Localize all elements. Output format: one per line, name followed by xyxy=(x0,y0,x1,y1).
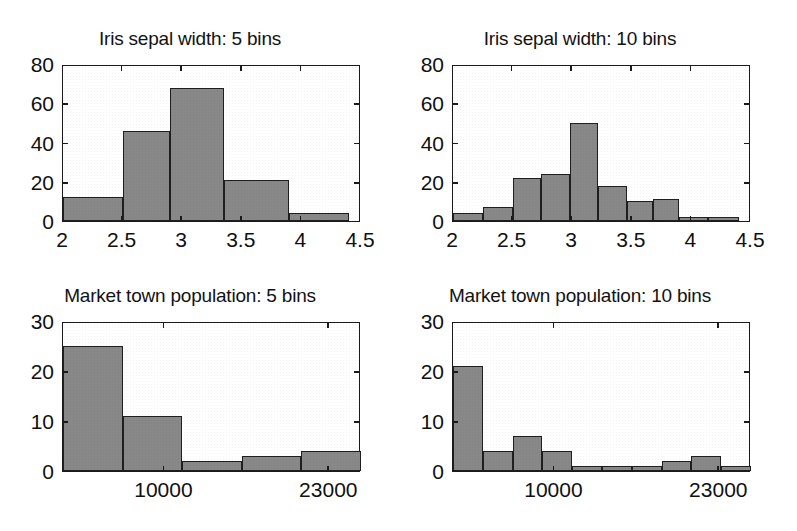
x-tick-label: 10000 xyxy=(134,478,192,502)
x-tick-mark xyxy=(240,65,242,71)
x-tick-label: 2 xyxy=(446,228,458,252)
y-tick-label: 20 xyxy=(421,360,444,384)
histogram-bar xyxy=(721,466,751,471)
y-tick-mark xyxy=(452,143,458,145)
x-tick-mark xyxy=(570,65,572,71)
y-tick-mark xyxy=(744,421,750,423)
x-tick-label: 3 xyxy=(565,228,577,252)
histogram-bar xyxy=(63,197,123,221)
x-tick-mark xyxy=(327,466,329,472)
x-tick-label: 3.5 xyxy=(226,228,255,252)
histogram-bar xyxy=(598,186,627,221)
histogram-bar xyxy=(542,451,572,471)
y-tick-mark xyxy=(354,143,360,145)
y-tick-mark xyxy=(62,182,68,184)
x-tick-mark xyxy=(180,65,182,71)
histogram-bar xyxy=(570,123,599,221)
panel-title: Iris sepal width: 5 bins xyxy=(0,28,380,50)
y-tick-label: 60 xyxy=(31,92,54,116)
x-tick-mark xyxy=(300,65,302,71)
histogram-bar xyxy=(602,466,632,471)
y-tick-mark xyxy=(62,421,68,423)
bar-series xyxy=(63,66,359,221)
histogram-bar xyxy=(182,461,242,471)
y-tick-mark xyxy=(744,182,750,184)
y-tick-mark xyxy=(354,371,360,373)
plot-area xyxy=(452,65,750,222)
histogram-bar xyxy=(483,207,513,221)
y-tick-mark xyxy=(62,143,68,145)
x-tick-mark xyxy=(327,322,329,328)
histogram-bar xyxy=(301,451,361,471)
histogram-bar xyxy=(632,466,662,471)
x-tick-mark xyxy=(300,216,302,222)
histogram-bar xyxy=(123,131,171,221)
bar-series xyxy=(453,323,749,471)
y-tick-label: 0 xyxy=(42,210,54,234)
histogram-bar xyxy=(679,217,708,221)
x-tick-mark xyxy=(180,216,182,222)
x-tick-label: 3.5 xyxy=(616,228,645,252)
x-tick-label: 4 xyxy=(295,228,307,252)
x-tick-mark xyxy=(717,466,719,472)
y-tick-label: 40 xyxy=(31,132,54,156)
histogram-bar xyxy=(242,456,302,471)
x-tick-label: 4.5 xyxy=(735,228,764,252)
bar-series xyxy=(453,66,749,221)
x-tick-label: 4.5 xyxy=(345,228,374,252)
y-tick-mark xyxy=(744,371,750,373)
x-tick-mark xyxy=(690,216,692,222)
histogram-bar xyxy=(662,461,692,471)
y-tick-mark xyxy=(452,421,458,423)
y-tick-mark xyxy=(452,371,458,373)
x-tick-mark xyxy=(553,466,555,472)
histogram-figure: Iris sepal width: 5 bins 020406080 22.53… xyxy=(0,0,797,531)
x-tick-mark xyxy=(570,216,572,222)
panel-title: Market town population: 5 bins xyxy=(0,285,380,307)
histogram-bar xyxy=(572,466,602,471)
y-tick-label: 20 xyxy=(31,360,54,384)
histogram-bar xyxy=(453,366,483,471)
y-tick-label: 60 xyxy=(421,92,444,116)
x-tick-mark xyxy=(717,322,719,328)
x-tick-mark xyxy=(553,322,555,328)
plot-area xyxy=(62,65,360,222)
x-tick-label: 3 xyxy=(175,228,187,252)
y-tick-label: 80 xyxy=(421,53,444,77)
x-tick-mark xyxy=(630,216,632,222)
histogram-bar xyxy=(289,213,349,221)
x-tick-mark xyxy=(121,216,123,222)
panel-market-town-5-bins: Market town population: 5 bins 0102030 1… xyxy=(0,285,380,520)
histogram-bar xyxy=(513,436,543,471)
y-tick-label: 30 xyxy=(31,310,54,334)
x-tick-label: 23000 xyxy=(299,478,357,502)
x-tick-mark xyxy=(163,466,165,472)
y-tick-label: 20 xyxy=(421,171,444,195)
panel-iris-5-bins: Iris sepal width: 5 bins 020406080 22.53… xyxy=(0,28,380,258)
x-tick-mark xyxy=(121,65,123,71)
x-tick-label: 2.5 xyxy=(497,228,526,252)
bar-series xyxy=(63,323,359,471)
histogram-bar xyxy=(541,174,570,221)
histogram-bar xyxy=(224,180,290,221)
y-tick-label: 20 xyxy=(31,171,54,195)
y-tick-label: 10 xyxy=(421,410,444,434)
y-tick-label: 30 xyxy=(421,310,444,334)
x-tick-label: 23000 xyxy=(689,478,747,502)
x-tick-mark xyxy=(163,322,165,328)
histogram-bar xyxy=(123,416,183,471)
x-tick-mark xyxy=(690,65,692,71)
x-tick-mark xyxy=(630,65,632,71)
y-tick-label: 0 xyxy=(42,460,54,484)
x-tick-label: 2.5 xyxy=(107,228,136,252)
y-tick-mark xyxy=(62,103,68,105)
x-tick-label: 2 xyxy=(56,228,68,252)
histogram-bar xyxy=(513,178,542,221)
panel-iris-10-bins: Iris sepal width: 10 bins 020406080 22.5… xyxy=(390,28,770,258)
panel-title: Iris sepal width: 10 bins xyxy=(390,28,770,50)
y-tick-label: 40 xyxy=(421,132,444,156)
plot-area xyxy=(62,322,360,472)
y-tick-label: 0 xyxy=(432,460,444,484)
histogram-bar xyxy=(63,346,123,471)
x-tick-mark xyxy=(511,216,513,222)
